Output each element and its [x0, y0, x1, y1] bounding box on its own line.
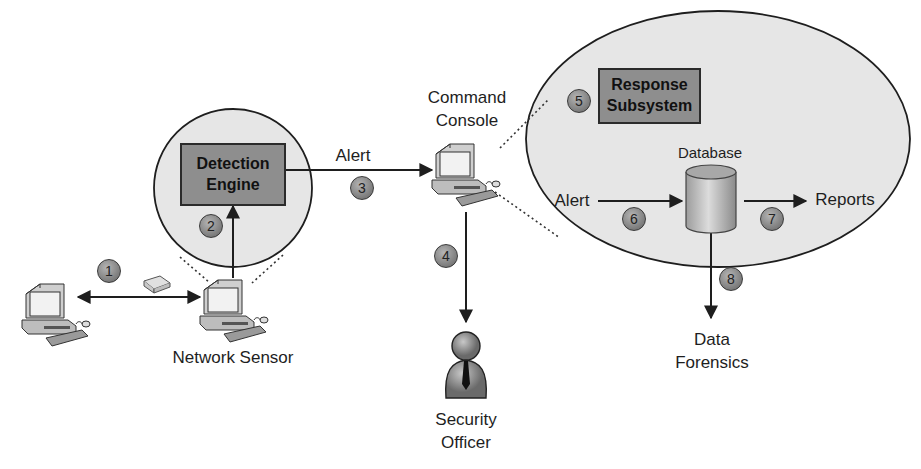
detection-engine-label-line2: Engine	[197, 175, 270, 196]
data-forensics-label-line1: Data	[675, 329, 749, 352]
security-officer-label-line2: Officer	[435, 432, 496, 455]
person-icon	[446, 332, 487, 398]
network-sensor-computer-icon	[200, 280, 268, 342]
database-cylinder-icon	[686, 165, 736, 233]
command-console-computer-icon	[432, 144, 500, 206]
response-subsystem-label-line2: Subsystem	[607, 96, 692, 117]
data-forensics-label-line2: Forensics	[675, 352, 749, 375]
step-badge-7: 7	[760, 207, 784, 231]
step-badge-8: 8	[719, 267, 743, 291]
edge-3-label: Alert	[336, 145, 371, 168]
command-console-label-line2: Console	[428, 110, 506, 133]
response-subsystem-box: Response Subsystem	[598, 68, 701, 124]
diagram-canvas	[0, 0, 921, 469]
reports-label: Reports	[815, 189, 875, 212]
security-officer-label: Security Officer	[435, 409, 496, 455]
network-sensor-label: Network Sensor	[173, 347, 294, 370]
envelope-icon	[144, 276, 170, 293]
database-label: Database	[678, 143, 742, 163]
detection-engine-box: Detection Engine	[180, 143, 286, 206]
step-badge-3: 3	[350, 176, 374, 200]
command-console-label: Command Console	[428, 87, 506, 133]
security-officer-label-line1: Security	[435, 409, 496, 432]
step-badge-1: 1	[97, 259, 121, 283]
step-badge-6: 6	[622, 207, 646, 231]
detection-engine-label-line1: Detection	[197, 154, 270, 175]
response-subsystem-label-line1: Response	[607, 75, 692, 96]
step-badge-5: 5	[567, 89, 591, 113]
data-forensics-label: Data Forensics	[675, 329, 749, 375]
step-badge-2: 2	[199, 214, 223, 238]
host-computer-icon	[22, 284, 90, 346]
edge-6-label: Alert	[555, 190, 590, 213]
command-console-label-line1: Command	[428, 87, 506, 110]
step-badge-4: 4	[434, 244, 458, 268]
